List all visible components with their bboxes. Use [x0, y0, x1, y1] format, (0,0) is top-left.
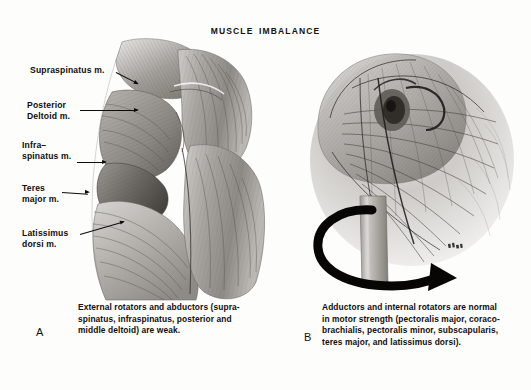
panel-b-illustration	[300, 48, 525, 298]
label-supraspinatus: Supraspinatus m.	[30, 65, 105, 76]
label-posterior-deltoid: Posterior Deltoid m.	[27, 100, 70, 123]
leader-arrowhead-infraspinatus	[102, 160, 107, 164]
panel-a-illustration	[78, 36, 283, 304]
leader-line-posterior-deltoid	[80, 110, 137, 111]
panel-letter-b: B	[304, 331, 312, 343]
page-title: MUSCLE IMBALANCE	[0, 26, 531, 36]
caption-panel-b: Adductors and internal rotators are norm…	[322, 302, 527, 348]
leader-line-infraspinatus	[77, 162, 105, 163]
leader-arrowhead-posterior-deltoid	[134, 108, 139, 112]
leader-arrowhead-teres-major	[85, 190, 90, 194]
label-latissimus-dorsi: Latissimus dorsi m.	[22, 228, 68, 251]
panel-letter-a: A	[36, 326, 44, 338]
label-teres-major: Teres major m.	[22, 183, 59, 206]
caption-panel-a: External rotators and abductors (supra- …	[78, 302, 278, 337]
label-infraspinatus: Infra– spinatus m.	[22, 140, 71, 163]
figure-page: MUSCLE IMBALANCE	[0, 0, 531, 390]
